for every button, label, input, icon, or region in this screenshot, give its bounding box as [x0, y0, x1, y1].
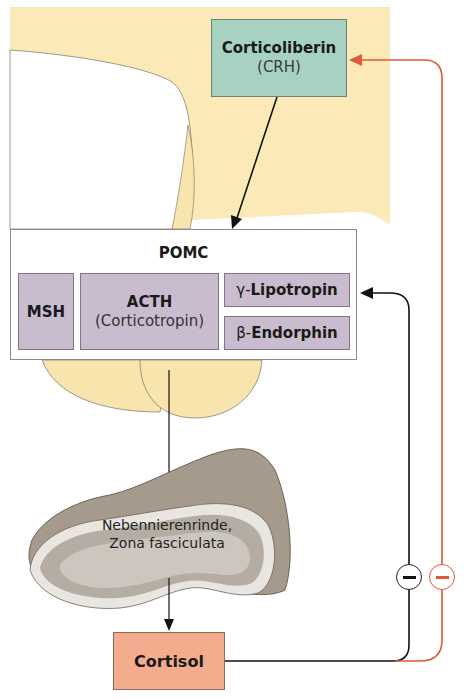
endorphin-fragment: β-Endorphin: [224, 316, 350, 350]
inhibition-icon-pituitary: [396, 564, 422, 590]
gamma-prefix: γ-: [236, 281, 250, 299]
hpa-axis-diagram: Corticoliberin (CRH) POMC MSH ACTH (Cort…: [0, 0, 464, 699]
adrenal-label-line1: Nebennierenrinde,: [82, 516, 252, 534]
lipotropin-fragment: γ-Lipotropin: [224, 273, 350, 307]
arrowhead-to-cortisol: [164, 619, 174, 631]
cortisol-label: Cortisol: [134, 652, 204, 671]
acth-sublabel: (Corticotropin): [95, 312, 204, 331]
msh-label: MSH: [27, 303, 65, 321]
pomc-box: POMC MSH ACTH (Corticotropin) γ-Lipotrop…: [10, 229, 357, 360]
msh-fragment: MSH: [18, 273, 74, 350]
acth-label: ACTH: [127, 293, 172, 312]
acth-fragment: ACTH (Corticotropin): [80, 273, 219, 350]
cortisol-box: Cortisol: [113, 632, 225, 690]
beta-prefix: β-: [236, 324, 251, 342]
inhibition-icon-hypothalamus: [429, 564, 455, 590]
lipotropin-label: Lipotropin: [251, 281, 338, 299]
corticoliberin-box: Corticoliberin (CRH): [211, 19, 347, 97]
adrenal-label-line2: Zona fasciculata: [82, 534, 252, 552]
pomc-title: POMC: [11, 244, 356, 262]
crh-abbreviation: (CRH): [257, 58, 301, 77]
corticoliberin-label: Corticoliberin: [222, 39, 337, 58]
adrenal-label: Nebennierenrinde, Zona fasciculata: [82, 516, 252, 552]
endorphin-label: Endorphin: [251, 324, 338, 342]
arrowhead-to-lipotropin: [360, 287, 373, 299]
